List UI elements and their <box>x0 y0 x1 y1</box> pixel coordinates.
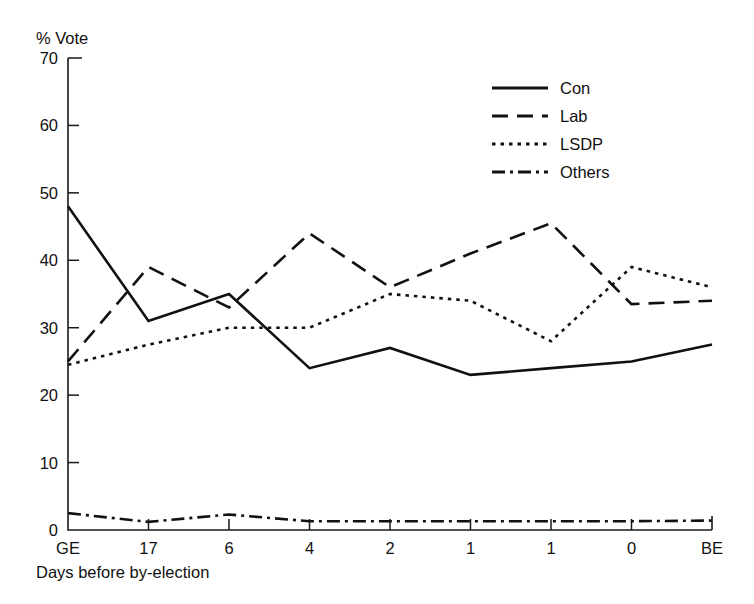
x-tick-label: GE <box>56 539 80 557</box>
x-tick-label: 2 <box>385 539 394 557</box>
legend-label-others: Others <box>560 163 610 181</box>
y-tick-label: 40 <box>40 251 58 269</box>
y-axis-title: % Vote <box>36 29 88 47</box>
series-line-con <box>68 206 712 375</box>
y-tick-label: 70 <box>40 49 58 67</box>
chart-legend: ConLabLSDPOthers <box>492 79 610 181</box>
y-tick-label: 0 <box>49 521 58 539</box>
y-tick-label: 10 <box>40 454 58 472</box>
y-tick-label: 60 <box>40 116 58 134</box>
x-axis-ticks: GE17642110BE <box>56 519 723 557</box>
data-series-group <box>68 206 712 522</box>
x-tick-label: 4 <box>305 539 314 557</box>
legend-label-con: Con <box>560 79 590 97</box>
x-tick-label: 1 <box>546 539 555 557</box>
y-tick-label: 30 <box>40 319 58 337</box>
x-axis-title: Days before by-election <box>36 563 209 581</box>
y-tick-label: 50 <box>40 184 58 202</box>
y-axis-ticks: 010203040506070 <box>40 49 79 539</box>
vote-share-line-chart: % Vote 010203040506070 GE17642110BE ConL… <box>0 0 754 604</box>
legend-label-lsdp: LSDP <box>560 135 603 153</box>
chart-container: % Vote 010203040506070 GE17642110BE ConL… <box>0 0 754 604</box>
y-tick-label: 20 <box>40 386 58 404</box>
x-tick-label: 17 <box>139 539 157 557</box>
series-line-others <box>68 513 712 522</box>
x-tick-label: BE <box>701 539 723 557</box>
x-tick-label: 1 <box>466 539 475 557</box>
x-tick-label: 0 <box>627 539 636 557</box>
x-tick-label: 6 <box>224 539 233 557</box>
legend-label-lab: Lab <box>560 107 588 125</box>
series-line-lab <box>68 223 712 361</box>
